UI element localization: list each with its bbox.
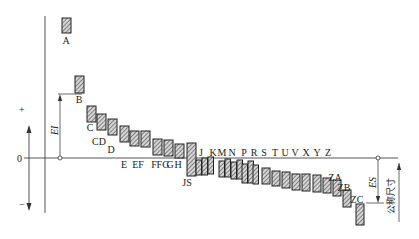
nominal-size-label: 公称尺寸 — [385, 178, 396, 214]
deviation-bar-b — [75, 76, 84, 93]
es-label: ES — [367, 177, 378, 189]
ei-label: EI — [49, 125, 60, 136]
deviation-label-u: U — [281, 147, 289, 158]
deviation-label-ef: EF — [132, 159, 144, 170]
deviation-bar-d — [108, 119, 117, 135]
deviation-label-b: B — [76, 94, 83, 105]
lower-deviation-bar — [208, 157, 214, 174]
lower-deviation-bar — [225, 159, 231, 177]
lower-deviation-bar — [356, 204, 364, 225]
nominal-size-arrow-icon — [397, 163, 401, 170]
deviation-label-d: D — [107, 144, 114, 155]
lower-deviation-bar — [253, 165, 259, 184]
ei-arrow-icon — [58, 94, 62, 101]
deviation-label-h: H — [174, 159, 181, 170]
lower-deviation-bar — [282, 172, 290, 188]
lower-deviation-bar — [202, 158, 208, 175]
deviation-label-j: J — [199, 147, 203, 158]
deviation-label-c: C — [87, 122, 94, 133]
fundamental-deviation-diagram: + − 0 EI ES 公称尺寸 ABCCDDEEFFFGGHJSJKMNPRS… — [0, 0, 419, 239]
deviation-bar-f — [141, 131, 150, 147]
deviation-label-v: V — [291, 147, 299, 158]
lower-deviation-bar — [272, 171, 280, 186]
deviation-label-zc: ZC — [351, 194, 364, 205]
deviation-bar-fg — [153, 139, 162, 155]
deviation-label-cd: CD — [92, 136, 106, 147]
deviation-label-g: G — [166, 159, 173, 170]
lower-deviation-bar — [292, 174, 300, 190]
deviation-bar-h — [175, 144, 184, 158]
zero-label: 0 — [17, 153, 22, 164]
deviation-label-n: N — [228, 147, 235, 158]
lower-deviation-bar — [313, 175, 321, 192]
deviation-label-a: A — [62, 35, 70, 46]
zero-line-end-marker — [376, 156, 380, 160]
deviation-label-js: JS — [182, 177, 191, 188]
lower-deviation-bar — [302, 174, 310, 191]
deviation-label-e: E — [121, 159, 127, 170]
deviation-label-y: Y — [313, 147, 320, 158]
deviation-bar-cd — [97, 114, 106, 130]
deviation-label-m: M — [218, 147, 227, 158]
minus-sign: − — [19, 199, 25, 210]
lower-deviation-bar — [231, 162, 237, 179]
lower-deviation-bar — [196, 160, 202, 175]
deviation-label-p: P — [241, 147, 247, 158]
deviation-bar-js — [187, 143, 196, 176]
deviation-label-z: Z — [325, 147, 331, 158]
deviation-bar-ef — [130, 131, 139, 146]
up-arrow-icon — [27, 125, 32, 133]
deviation-bar-a — [62, 18, 71, 33]
deviation-label-k: K — [209, 147, 217, 158]
deviation-label-x: X — [302, 147, 310, 158]
deviation-bar-c — [87, 106, 96, 122]
zero-line-origin-marker — [58, 156, 62, 160]
deviation-label-zb: ZB — [338, 182, 351, 193]
deviation-label-t: T — [272, 147, 278, 158]
down-arrow-icon — [27, 203, 32, 211]
deviation-label-r: R — [251, 147, 258, 158]
deviation-bar-g — [164, 140, 173, 156]
lower-deviation-bar — [219, 161, 225, 177]
lower-deviation-bar — [242, 164, 248, 183]
deviation-label-s: S — [261, 147, 267, 158]
deviation-bar-e — [120, 126, 129, 142]
es-arrow-icon — [376, 196, 380, 203]
lower-deviation-bar — [262, 168, 270, 184]
plus-sign: + — [19, 104, 25, 115]
